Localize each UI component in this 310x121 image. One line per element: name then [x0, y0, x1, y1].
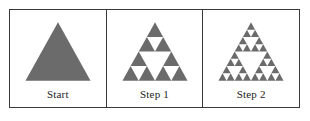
- sierpinski-depth-3-icon: [217, 21, 285, 82]
- solid-triangle-svg: [24, 21, 92, 82]
- solid-triangle-icon: [24, 21, 92, 82]
- sierpinski-depth-3-svg: [217, 21, 285, 82]
- panel-step-2: Step 2: [202, 10, 299, 107]
- panel-start: Start: [10, 10, 106, 107]
- panel-step-1: Step 1: [106, 10, 203, 107]
- panel-label-step-1: Step 1: [140, 88, 169, 100]
- figure-frame: Start Step 1 Step 2: [9, 9, 300, 108]
- sierpinski-depth-2-svg: [121, 21, 189, 82]
- sierpinski-depth-2-icon: [121, 21, 189, 82]
- panel-label-step-2: Step 2: [237, 88, 266, 100]
- sierpinski-figure: Start Step 1 Step 2: [0, 0, 310, 121]
- panel-label-start: Start: [47, 88, 69, 100]
